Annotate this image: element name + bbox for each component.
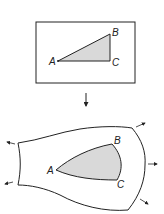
arrow-upper-right-icon [136, 123, 145, 127]
undeformed-body: A B C [36, 22, 135, 83]
deformed-triangle-abc [56, 144, 121, 180]
arrow-upper-left-icon [7, 142, 15, 144]
label-b-top: B [112, 27, 119, 38]
vertex-a-dot [57, 60, 59, 62]
arrow-lower-right-icon [140, 199, 148, 204]
label-b-bottom: B [114, 135, 121, 146]
arrow-lower-left-icon [5, 182, 13, 184]
label-c-top: C [112, 57, 120, 68]
deformation-diagram: A B C A B C [0, 0, 164, 214]
label-a-top: A [48, 56, 56, 67]
triangle-abc [58, 34, 110, 61]
deformed-body: A B C [5, 123, 157, 210]
label-c-bottom: C [117, 179, 125, 190]
label-a-bottom: A [46, 165, 54, 176]
